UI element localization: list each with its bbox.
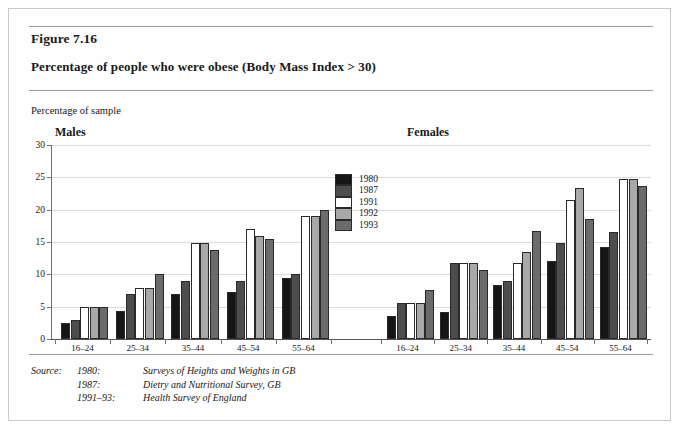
x-tick xyxy=(647,339,648,344)
bar-1987 xyxy=(291,274,300,339)
x-tick xyxy=(594,339,595,344)
legend-swatch-1987 xyxy=(335,185,352,196)
bar-1980 xyxy=(171,294,180,339)
bar-1980 xyxy=(600,247,609,339)
bar-1992 xyxy=(255,236,264,339)
bar-1987 xyxy=(236,281,245,339)
bar-group xyxy=(110,145,165,339)
x-tick xyxy=(221,339,222,344)
y-axis-caption: Percentage of sample xyxy=(31,105,121,116)
bar-1993 xyxy=(265,239,274,339)
bar-group xyxy=(541,145,594,339)
source-text: Surveys of Heights and Weights in GB xyxy=(143,364,295,378)
x-tick-label: 16–24 xyxy=(56,343,110,353)
y-tick-25 xyxy=(47,177,52,178)
bar-1987 xyxy=(450,263,459,339)
bar-1987 xyxy=(609,232,618,339)
x-tick-label: 16–24 xyxy=(381,343,435,353)
y-tick-10 xyxy=(47,274,52,275)
bar-1980 xyxy=(116,311,125,339)
y-tick-label-5: 5 xyxy=(25,303,45,313)
y-tick-label-30: 30 xyxy=(25,141,45,151)
legend-swatch-1992 xyxy=(335,208,352,219)
panel-label-females: Females xyxy=(407,125,449,140)
bar-1992 xyxy=(311,216,320,339)
legend-label-1987: 1987 xyxy=(359,185,378,196)
figure-title: Percentage of people who were obese (Bod… xyxy=(31,59,376,75)
y-tick-label-10: 10 xyxy=(25,270,45,280)
y-tick-label-15: 15 xyxy=(25,238,45,248)
source-text: Health Survey of England xyxy=(143,391,247,405)
y-tick-label-20: 20 xyxy=(25,206,45,216)
x-tick-label: 25–34 xyxy=(111,343,165,353)
rule-bottom xyxy=(29,354,653,355)
bar-1991 xyxy=(459,263,468,339)
y-tick-15 xyxy=(47,242,52,243)
bar-1993 xyxy=(532,231,541,339)
bar-1992 xyxy=(575,188,584,339)
bar-1980 xyxy=(440,312,449,339)
source-year: 1987: xyxy=(77,378,100,392)
bar-1991 xyxy=(513,263,522,339)
bar-group xyxy=(165,145,220,339)
bar-1987 xyxy=(397,303,406,339)
bar-1991 xyxy=(80,307,89,339)
bar-1980 xyxy=(282,278,291,339)
bar-1993 xyxy=(479,270,488,339)
source-lead: Source: xyxy=(31,364,62,378)
x-tick xyxy=(541,339,542,344)
bar-1980 xyxy=(227,292,236,339)
bar-panel-females: 16–2425–3435–4445–5455–64 xyxy=(381,145,647,339)
bar-1993 xyxy=(99,307,108,339)
x-tick xyxy=(110,339,111,344)
panel-label-males: Males xyxy=(55,125,86,140)
x-tick-label: 35–44 xyxy=(487,343,541,353)
y-tick-label-25: 25 xyxy=(25,173,45,183)
bar-1991 xyxy=(406,303,415,339)
bar-1987 xyxy=(126,294,135,339)
x-tick-label: 45–54 xyxy=(540,343,594,353)
x-tick-label: 35–44 xyxy=(166,343,220,353)
figure-container: Figure 7.16 Percentage of people who wer… xyxy=(8,8,671,421)
bar-1992 xyxy=(200,243,209,339)
bar-1987 xyxy=(503,281,512,339)
bar-1987 xyxy=(181,281,190,339)
bar-1980 xyxy=(387,316,396,339)
x-tick xyxy=(331,339,332,344)
bar-1993 xyxy=(320,210,329,339)
x-tick-label: 55–64 xyxy=(593,343,647,353)
bar-1992 xyxy=(145,288,154,339)
bar-1991 xyxy=(135,288,144,339)
y-tick-label-0: 0 xyxy=(25,335,45,345)
bar-1993 xyxy=(425,290,434,339)
x-tick xyxy=(487,339,488,344)
bar-1991 xyxy=(246,229,255,339)
bar-1987 xyxy=(71,320,80,339)
legend-swatch-1980 xyxy=(335,174,352,185)
bar-1991 xyxy=(301,216,310,339)
bar-1992 xyxy=(522,252,531,339)
source-text: Dietry and Nutritional Survey, GB xyxy=(143,378,281,392)
bar-group xyxy=(487,145,540,339)
legend-label-1992: 1992 xyxy=(359,208,378,219)
bar-1992 xyxy=(629,179,638,339)
x-tick-label: 55–64 xyxy=(276,343,330,353)
bar-1991 xyxy=(566,200,575,339)
legend-label-1980: 1980 xyxy=(359,174,378,185)
x-axis-line xyxy=(51,339,651,340)
y-tick-30 xyxy=(47,145,52,146)
bar-1993 xyxy=(210,250,219,339)
rule-middle xyxy=(29,90,653,91)
legend-label-1991: 1991 xyxy=(359,197,378,208)
bar-1992 xyxy=(416,303,425,339)
bar-1980 xyxy=(547,261,556,339)
bar-group xyxy=(55,145,110,339)
figure-number: Figure 7.16 xyxy=(31,31,97,47)
source-year: 1991–93: xyxy=(77,391,115,405)
bar-1993 xyxy=(585,219,594,339)
bar-1992 xyxy=(469,263,478,339)
x-tick xyxy=(381,339,382,344)
legend-swatch-1993 xyxy=(335,220,352,231)
bar-1991 xyxy=(619,179,628,339)
bar-group xyxy=(381,145,434,339)
